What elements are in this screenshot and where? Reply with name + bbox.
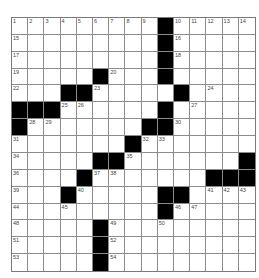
grid-cell[interactable]: 12 — [206, 18, 222, 35]
grid-cell[interactable] — [206, 153, 222, 170]
grid-cell[interactable]: 14 — [239, 18, 255, 35]
grid-cell[interactable]: 29 — [44, 119, 60, 136]
grid-cell[interactable]: 48 — [12, 220, 28, 237]
grid-cell[interactable]: 37 — [93, 170, 109, 187]
grid-cell[interactable]: 49 — [109, 220, 125, 237]
grid-cell[interactable]: 40 — [77, 187, 93, 204]
grid-cell[interactable]: 41 — [206, 187, 222, 204]
grid-cell[interactable] — [93, 136, 109, 153]
grid-cell[interactable] — [93, 52, 109, 69]
grid-cell[interactable]: 20 — [109, 69, 125, 86]
grid-cell[interactable]: 16 — [174, 35, 190, 52]
grid-cell[interactable] — [61, 254, 77, 271]
grid-cell[interactable] — [93, 119, 109, 136]
grid-cell[interactable] — [223, 220, 239, 237]
grid-cell[interactable]: 17 — [12, 52, 28, 69]
grid-cell[interactable]: 25 — [61, 102, 77, 119]
grid-cell[interactable] — [142, 153, 158, 170]
grid-cell[interactable]: 26 — [77, 102, 93, 119]
grid-cell[interactable] — [142, 187, 158, 204]
grid-cell[interactable] — [174, 69, 190, 86]
grid-cell[interactable]: 22 — [12, 85, 28, 102]
grid-cell[interactable] — [190, 136, 206, 153]
grid-cell[interactable] — [174, 102, 190, 119]
grid-cell[interactable] — [93, 204, 109, 221]
grid-cell[interactable] — [44, 187, 60, 204]
grid-cell[interactable] — [61, 119, 77, 136]
grid-cell[interactable] — [142, 170, 158, 187]
grid-cell[interactable]: 33 — [158, 136, 174, 153]
grid-cell[interactable] — [61, 69, 77, 86]
grid-cell[interactable]: 52 — [109, 237, 125, 254]
grid-cell[interactable] — [142, 35, 158, 52]
grid-cell[interactable] — [142, 237, 158, 254]
grid-cell[interactable] — [125, 119, 141, 136]
grid-cell[interactable] — [77, 119, 93, 136]
grid-cell[interactable] — [44, 170, 60, 187]
grid-cell[interactable] — [206, 102, 222, 119]
grid-cell[interactable] — [93, 187, 109, 204]
grid-cell[interactable] — [174, 170, 190, 187]
grid-cell[interactable] — [44, 69, 60, 86]
grid-cell[interactable] — [206, 254, 222, 271]
grid-cell[interactable] — [206, 136, 222, 153]
grid-cell[interactable] — [44, 52, 60, 69]
grid-cell[interactable] — [77, 220, 93, 237]
grid-cell[interactable] — [158, 85, 174, 102]
grid-cell[interactable]: 8 — [125, 18, 141, 35]
grid-cell[interactable] — [239, 85, 255, 102]
grid-cell[interactable]: 51 — [12, 237, 28, 254]
grid-cell[interactable] — [174, 237, 190, 254]
grid-cell[interactable] — [125, 35, 141, 52]
grid-cell[interactable] — [28, 237, 44, 254]
grid-cell[interactable] — [223, 35, 239, 52]
grid-cell[interactable]: 53 — [12, 254, 28, 271]
grid-cell[interactable] — [77, 136, 93, 153]
grid-cell[interactable] — [223, 204, 239, 221]
grid-cell[interactable] — [190, 254, 206, 271]
grid-cell[interactable] — [28, 254, 44, 271]
grid-cell[interactable] — [61, 237, 77, 254]
grid-cell[interactable] — [158, 237, 174, 254]
grid-cell[interactable] — [223, 237, 239, 254]
grid-cell[interactable]: 18 — [174, 52, 190, 69]
grid-cell[interactable] — [109, 85, 125, 102]
grid-cell[interactable]: 23 — [93, 85, 109, 102]
grid-cell[interactable] — [206, 220, 222, 237]
grid-cell[interactable]: 15 — [12, 35, 28, 52]
grid-cell[interactable] — [223, 153, 239, 170]
grid-cell[interactable] — [239, 35, 255, 52]
grid-cell[interactable] — [142, 204, 158, 221]
grid-cell[interactable] — [174, 153, 190, 170]
grid-cell[interactable] — [239, 119, 255, 136]
grid-cell[interactable] — [158, 153, 174, 170]
grid-cell[interactable] — [190, 237, 206, 254]
grid-cell[interactable] — [142, 220, 158, 237]
grid-cell[interactable] — [109, 204, 125, 221]
grid-cell[interactable] — [44, 204, 60, 221]
grid-cell[interactable] — [77, 153, 93, 170]
grid-cell[interactable] — [190, 69, 206, 86]
grid-cell[interactable] — [77, 52, 93, 69]
grid-cell[interactable] — [239, 204, 255, 221]
grid-cell[interactable] — [109, 35, 125, 52]
grid-cell[interactable] — [223, 85, 239, 102]
grid-cell[interactable] — [190, 119, 206, 136]
grid-cell[interactable]: 9 — [142, 18, 158, 35]
grid-cell[interactable] — [77, 254, 93, 271]
grid-cell[interactable]: 34 — [12, 153, 28, 170]
grid-cell[interactable] — [44, 85, 60, 102]
grid-cell[interactable] — [190, 52, 206, 69]
grid-cell[interactable]: 24 — [206, 85, 222, 102]
grid-cell[interactable] — [109, 119, 125, 136]
grid-cell[interactable] — [239, 254, 255, 271]
grid-cell[interactable] — [28, 220, 44, 237]
grid-cell[interactable] — [125, 187, 141, 204]
grid-cell[interactable] — [190, 85, 206, 102]
grid-cell[interactable]: 45 — [61, 204, 77, 221]
grid-cell[interactable] — [206, 35, 222, 52]
grid-cell[interactable] — [109, 52, 125, 69]
grid-cell[interactable] — [28, 136, 44, 153]
grid-cell[interactable] — [28, 153, 44, 170]
grid-cell[interactable] — [142, 102, 158, 119]
